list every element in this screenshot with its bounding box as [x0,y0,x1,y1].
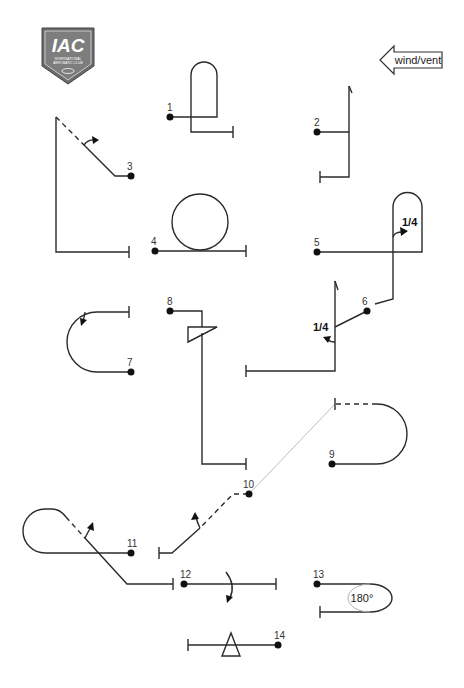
figure-number: 4 [151,236,157,247]
figure-13: 180° 13 [313,569,392,618]
sequence-diagram: wind/vent 1 2 3 4 1/ [0,0,464,688]
figure-number: 8 [167,296,173,307]
roll-label: 1/4 [313,321,329,333]
figure-number: 3 [127,161,133,172]
figure-14: 14 [188,630,286,656]
wind-arrow-icon: wind/vent [380,46,442,74]
figure-number: 13 [313,569,325,580]
figure-3: 3 [56,117,135,258]
figure-number: 2 [314,117,320,128]
figure-number: 6 [362,296,368,307]
roll-label: 1/4 [402,216,418,228]
roll-arrow-icon [92,136,99,144]
figure-5: 1/4 5 [314,193,423,305]
figure-8: 8 [167,296,247,470]
turn-label: 180° [351,592,374,604]
wind-label: wind/vent [394,54,441,66]
figure-number: 14 [274,630,286,641]
figure-number: 12 [180,569,192,580]
figure-4: 4 [151,194,246,257]
figure-number: 9 [329,449,335,460]
figure-number: 1 [167,102,173,113]
figure-number: 7 [127,357,133,368]
figure-number: 5 [314,237,320,248]
figure-6: 1/4 6 [246,281,371,377]
figure-7: 7 [67,306,135,376]
figure-number: 11 [127,538,138,549]
figure-11: 11 [23,509,173,590]
figure-10: 10 [159,479,255,559]
figure-2: 2 [314,86,353,183]
figure-12: 12 [180,569,276,603]
start-dot-icon [167,114,174,121]
figure-1: 1 [167,62,234,138]
figure-number: 10 [243,479,255,490]
figure-9: 9 [329,398,408,468]
connector-line [250,404,335,493]
